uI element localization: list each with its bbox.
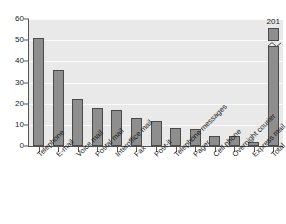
y-axis-tick-label: 20	[15, 100, 24, 108]
y-axis-tick-label: 10	[15, 121, 24, 129]
y-axis-tick-label: 50	[15, 36, 24, 44]
axis-break-symbol	[268, 40, 279, 47]
y-axis-tick-mark	[24, 103, 29, 104]
y-axis-tick-mark	[24, 82, 29, 83]
y-axis-tick-label: 40	[15, 57, 24, 65]
y-axis-tick-mark	[24, 61, 29, 62]
bar	[72, 99, 83, 146]
bar-value-label: 201	[267, 18, 280, 26]
y-axis-tick-mark	[24, 40, 29, 41]
y-axis-tick-label: 60	[15, 15, 24, 23]
plot-area	[29, 19, 283, 146]
y-axis-tick-label: 30	[15, 79, 24, 87]
bar-chart: 0102030405060 TelephoneE-mailVoice mailP…	[0, 0, 286, 224]
y-axis-tick-mark	[24, 19, 29, 20]
bar	[33, 38, 44, 146]
y-axis-tick-mark	[24, 124, 29, 125]
bars-layer	[29, 19, 283, 146]
